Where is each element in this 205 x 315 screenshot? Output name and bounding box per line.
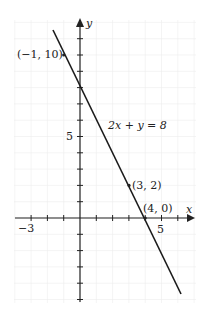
point-4-0 [144, 216, 147, 219]
tick-label-x-5: 5 [157, 224, 164, 235]
tick-label-x-neg3: −3 [18, 223, 34, 234]
tick-label-y-5: 5 [66, 131, 73, 142]
point-label-3-2: (3, 2) [132, 180, 162, 191]
y-axis-label: y [86, 18, 92, 29]
point-3-2 [127, 184, 130, 187]
point-label-4-0: (4, 0) [143, 203, 173, 214]
grid [14, 20, 196, 303]
point-label-neg1-10: (−1, 10) [17, 49, 63, 60]
equation-label: 2x + y = 8 [108, 120, 167, 131]
x-axis-label: x [186, 204, 192, 215]
